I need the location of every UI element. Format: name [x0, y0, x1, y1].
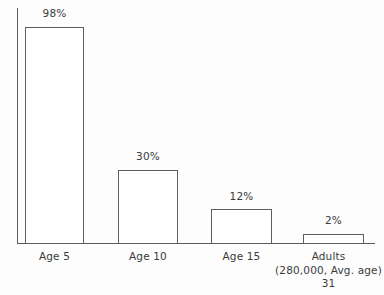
- bar-age-5: [25, 27, 84, 244]
- value-label-adults: 2%: [303, 214, 364, 226]
- category-label-line: 31: [273, 277, 384, 291]
- bar-chart: 98% Age 5 30% Age 10 12% Age 15 2% Adult…: [0, 0, 384, 295]
- value-label-age-10: 30%: [118, 150, 178, 162]
- category-label-line: Age 5: [5, 250, 104, 264]
- bar-adults: [303, 234, 364, 244]
- category-label-age-10: Age 10: [98, 250, 198, 264]
- value-label-age-5: 98%: [25, 7, 84, 19]
- y-axis-line: [17, 8, 18, 244]
- category-label-adults: Adults (280,000, Avg. age) 31: [273, 250, 384, 291]
- bar-age-10: [118, 170, 178, 244]
- value-label-age-15: 12%: [211, 190, 272, 202]
- category-label-age-5: Age 5: [5, 250, 104, 264]
- category-label-line: (280,000, Avg. age): [273, 264, 384, 278]
- category-label-line: Age 10: [98, 250, 198, 264]
- bar-age-15: [211, 209, 272, 244]
- category-label-line: Adults: [273, 250, 384, 264]
